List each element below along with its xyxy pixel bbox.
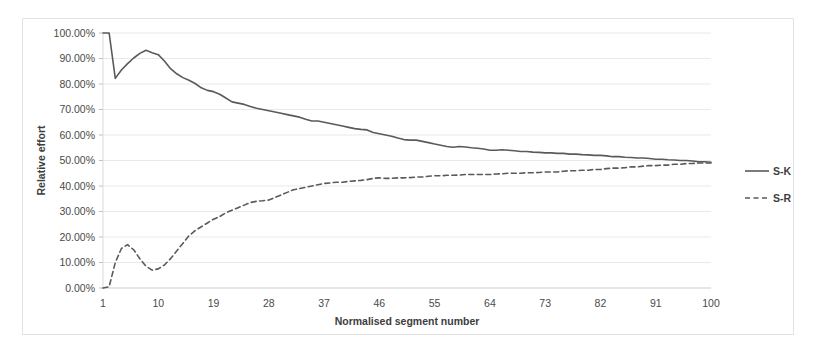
y-axis-tick-label: 10.00% bbox=[59, 256, 95, 268]
x-axis-tick-labels: 110192837465564738291100 bbox=[100, 297, 720, 309]
series-line-s-r bbox=[103, 163, 711, 288]
y-axis-tick-labels: 0.00%10.00%20.00%30.00%40.00%50.00%60.00… bbox=[54, 27, 95, 294]
legend-label-s-r: S-R bbox=[773, 192, 792, 204]
y-axis-tick-label: 50.00% bbox=[59, 154, 95, 166]
x-axis-tick-label: 73 bbox=[539, 297, 551, 309]
x-axis-tick-label: 19 bbox=[208, 297, 220, 309]
y-axis-tick-label: 30.00% bbox=[59, 205, 95, 217]
gridlines bbox=[99, 33, 711, 288]
x-axis-title: Normalised segment number bbox=[335, 315, 480, 327]
x-axis-tick-label: 10 bbox=[152, 297, 164, 309]
x-axis-tick-label: 1 bbox=[100, 297, 106, 309]
x-axis-tick-label: 64 bbox=[484, 297, 496, 309]
chart-canvas: 0.00%10.00%20.00%30.00%40.00%50.00%60.00… bbox=[23, 19, 795, 336]
y-axis-tick-label: 90.00% bbox=[59, 52, 95, 64]
y-axis-tick-label: 60.00% bbox=[59, 129, 95, 141]
y-axis-tick-label: 100.00% bbox=[54, 27, 95, 39]
y-axis-tick-label: 0.00% bbox=[65, 282, 95, 294]
legend-label-s-k: S-K bbox=[773, 165, 792, 177]
x-axis-tick-label: 91 bbox=[650, 297, 662, 309]
line-chart: 0.00%10.00%20.00%30.00%40.00%50.00%60.00… bbox=[23, 19, 795, 336]
x-axis-tick-label: 28 bbox=[263, 297, 275, 309]
chart-legend: S-KS-R bbox=[745, 165, 792, 204]
x-axis-tick-label: 82 bbox=[595, 297, 607, 309]
x-axis-tick-label: 55 bbox=[429, 297, 441, 309]
chart-figure-frame: 0.00%10.00%20.00%30.00%40.00%50.00%60.00… bbox=[22, 18, 794, 335]
series-line-s-k bbox=[103, 33, 711, 162]
y-axis-tick-label: 20.00% bbox=[59, 231, 95, 243]
y-axis-title: Relative effort bbox=[35, 125, 47, 196]
y-axis-tick-label: 70.00% bbox=[59, 103, 95, 115]
y-axis-tick-label: 80.00% bbox=[59, 78, 95, 90]
y-axis-tick-label: 40.00% bbox=[59, 180, 95, 192]
x-axis-tick-label: 46 bbox=[374, 297, 386, 309]
x-axis-tick-label: 100 bbox=[702, 297, 720, 309]
x-axis-tick-label: 37 bbox=[318, 297, 330, 309]
